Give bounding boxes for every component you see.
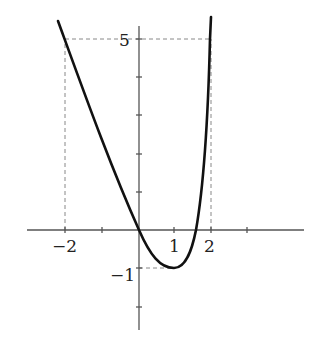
x-label-2: 2 [204, 236, 215, 256]
axes [27, 26, 304, 330]
y-label-neg1: −1 [110, 265, 135, 285]
x-label-1: 1 [169, 236, 180, 256]
ticks [65, 39, 247, 307]
y-label-5: 5 [119, 30, 130, 50]
x-label-neg2: −2 [52, 236, 77, 256]
function-graph: −2 1 2 5 −1 [0, 0, 323, 346]
